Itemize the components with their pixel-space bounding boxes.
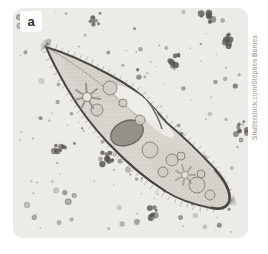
micrograph-figure: a xyxy=(0,0,268,254)
cell-interior xyxy=(46,44,242,227)
food-vacuole xyxy=(135,115,145,125)
food-vacuole xyxy=(177,152,185,160)
food-vacuole xyxy=(166,154,178,166)
food-vacuole xyxy=(205,190,215,200)
food-vacuole xyxy=(189,177,205,193)
paramecium-cell xyxy=(41,40,243,227)
panel-label: a xyxy=(20,11,42,32)
food-vacuole xyxy=(103,81,117,95)
food-vacuole xyxy=(119,99,127,107)
food-vacuole xyxy=(142,142,158,158)
micrograph-photo xyxy=(13,8,248,238)
panel-label-text: a xyxy=(27,14,34,29)
paramecium-micrograph xyxy=(13,8,248,238)
food-vacuole xyxy=(197,170,205,178)
food-vacuole xyxy=(158,167,168,177)
image-credit: Shutterstock.com/Stephen Barnes xyxy=(251,8,265,140)
figure-panel: { "panel": { "label": "a" }, "credit": {… xyxy=(0,0,268,254)
image-credit-text: Shutterstock.com/Stephen Barnes xyxy=(251,8,258,140)
